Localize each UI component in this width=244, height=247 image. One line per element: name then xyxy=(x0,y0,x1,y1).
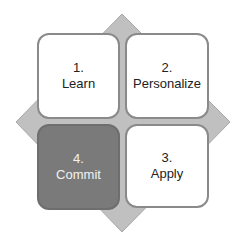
step-label: Learn xyxy=(62,76,95,92)
background-diamond xyxy=(0,0,244,247)
step-number: 4. xyxy=(73,151,84,167)
step-3-apply: 3. Apply xyxy=(125,124,209,208)
step-number: 2. xyxy=(162,60,173,76)
step-label: Commit xyxy=(56,167,101,183)
step-1-learn: 1. Learn xyxy=(37,33,120,119)
step-label: Apply xyxy=(151,166,184,182)
step-4-commit: 4. Commit xyxy=(37,124,120,210)
step-label: Personalize xyxy=(133,76,201,92)
step-number: 3. xyxy=(162,150,173,166)
step-2-personalize: 2. Personalize xyxy=(125,33,209,119)
step-number: 1. xyxy=(73,60,84,76)
